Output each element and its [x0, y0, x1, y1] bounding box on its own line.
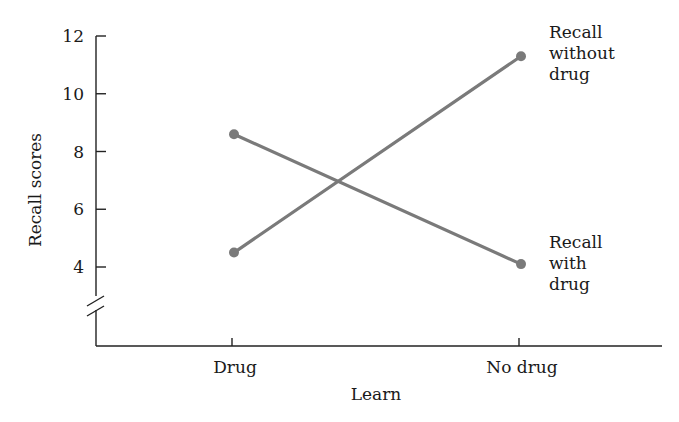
data-point	[516, 51, 526, 61]
x-axis-title: Learn	[351, 384, 402, 404]
x-tick-label: No drug	[486, 357, 557, 377]
y-tick-label: 6	[73, 199, 84, 219]
data-point	[229, 248, 239, 258]
series-label-line: Recall	[549, 232, 602, 252]
y-tick-label: 8	[73, 142, 84, 162]
y-axis-title: Recall scores	[25, 133, 45, 247]
axis-break-mark	[87, 296, 104, 306]
series-label-line: without	[549, 43, 615, 63]
data-point	[229, 129, 239, 139]
interaction-line-chart: 4681012 DrugNo drug RecallwithdrugRecall…	[0, 0, 679, 422]
x-tick-label: Drug	[213, 357, 257, 377]
series-group	[229, 51, 526, 269]
y-tick-label: 10	[62, 84, 84, 104]
series-label-line: Recall	[549, 22, 602, 42]
series-label-line: with	[549, 253, 587, 273]
y-tick-label: 12	[62, 26, 84, 46]
series-label-without-drug: Recallwithoutdrug	[549, 22, 615, 84]
series-labels: RecallwithdrugRecallwithoutdrug	[549, 22, 615, 294]
series-label-line: drug	[549, 274, 590, 294]
data-point	[516, 259, 526, 269]
y-ticks: 4681012	[62, 26, 106, 277]
series-label-line: drug	[549, 64, 590, 84]
x-ticks: DrugNo drug	[213, 338, 558, 377]
y-tick-label: 4	[73, 257, 84, 277]
series-label-with-drug: Recallwithdrug	[549, 232, 602, 294]
